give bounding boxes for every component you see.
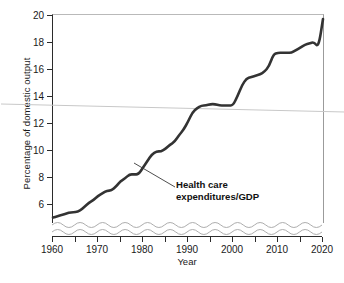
x-tick-1995 bbox=[210, 237, 211, 242]
x-tick-1980 bbox=[142, 237, 143, 242]
y-tick-label-12: 12 bbox=[33, 118, 44, 129]
y-axis-title: Percentage of domestic output bbox=[21, 34, 32, 214]
y-axis-break-symbol bbox=[52, 221, 322, 236]
x-tick-1985 bbox=[165, 237, 166, 242]
x-tick-2020 bbox=[322, 237, 323, 242]
x-tick-label-1960: 1960 bbox=[41, 244, 63, 255]
x-tick-2005 bbox=[255, 237, 256, 242]
y-tick-label-16: 16 bbox=[33, 64, 44, 75]
x-tick-label-2000: 2000 bbox=[221, 244, 243, 255]
x-tick-label-1990: 1990 bbox=[176, 244, 198, 255]
x-tick-label-1970: 1970 bbox=[86, 244, 108, 255]
chart-figure: Percentage of domestic output 6810121416… bbox=[0, 0, 344, 283]
x-tick-2010 bbox=[277, 237, 278, 242]
x-tick-2015 bbox=[300, 237, 301, 242]
x-axis: 1960197019801990200020102020 bbox=[52, 236, 322, 237]
x-tick-label-1980: 1980 bbox=[131, 244, 153, 255]
x-tick-1970 bbox=[97, 237, 98, 242]
x-tick-1990 bbox=[187, 237, 188, 242]
y-tick-label-8: 8 bbox=[38, 172, 44, 183]
y-tick-label-10: 10 bbox=[33, 145, 44, 156]
x-tick-1975 bbox=[120, 237, 121, 242]
x-tick-label-2010: 2010 bbox=[266, 244, 288, 255]
y-tick-label-20: 20 bbox=[33, 10, 44, 21]
y-tick-label-6: 6 bbox=[38, 199, 44, 210]
x-tick-2000 bbox=[232, 237, 233, 242]
y-tick-label-14: 14 bbox=[33, 91, 44, 102]
x-axis-title: Year bbox=[52, 256, 322, 267]
y-tick-label-18: 18 bbox=[33, 37, 44, 48]
x-tick-1960 bbox=[52, 237, 53, 242]
x-tick-1965 bbox=[75, 237, 76, 242]
annotation-line-1: Health care bbox=[176, 179, 259, 191]
annotation-line-2: expenditures/GDP bbox=[176, 191, 259, 203]
series-annotation: Health care expenditures/GDP bbox=[176, 179, 259, 203]
x-tick-label-2020: 2020 bbox=[311, 244, 333, 255]
